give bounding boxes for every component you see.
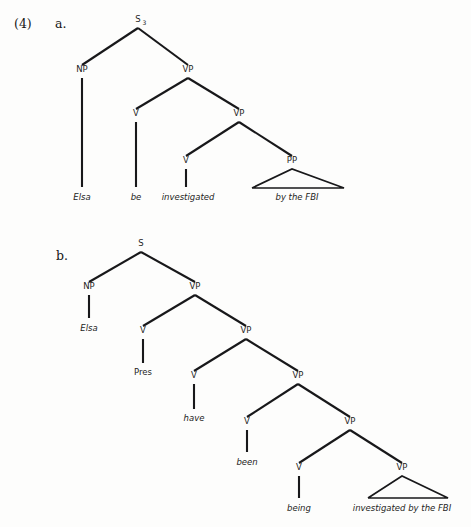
tree-node-v: V xyxy=(191,370,197,380)
tree-branch xyxy=(247,384,298,417)
tree-branch xyxy=(239,122,292,156)
tree-drawing-canvas: S3NPVPVVPVPPElsabeinvestigatedby the FBI… xyxy=(0,0,471,527)
tree-branch xyxy=(195,295,246,326)
terminal-word: Elsa xyxy=(73,192,90,202)
terminal-word: been xyxy=(236,457,257,467)
tree-node-vp: VP xyxy=(241,325,252,335)
terminal-word: by the FBI xyxy=(275,192,318,202)
tree-branch xyxy=(143,295,195,326)
tree-a: S3NPVPVVPVPPElsabeinvestigatedby the FBI xyxy=(73,14,344,202)
tree-node-vp: VP xyxy=(397,462,408,472)
terminal-word: Pres xyxy=(134,367,153,377)
tree-node-s: S xyxy=(135,14,140,24)
tree-branch xyxy=(194,339,246,371)
tree-branch xyxy=(298,384,350,417)
tree-node-v: V xyxy=(183,155,189,165)
constituent-triangle xyxy=(368,476,448,498)
terminal-word: be xyxy=(131,192,142,202)
tree-b: SNPVPVVPVVPVVPVVPElsaPreshavebeenbeingin… xyxy=(80,238,451,513)
tree-branch xyxy=(136,78,188,109)
tree-node-v: V xyxy=(133,108,139,118)
tree-branch xyxy=(82,28,138,65)
tree-branch xyxy=(141,252,195,282)
tree-branch xyxy=(186,122,239,156)
tree-node-v: V xyxy=(296,462,302,472)
terminal-word: investigated by the FBI xyxy=(353,503,452,513)
tree-branch xyxy=(89,252,141,282)
tree-node-pp: PP xyxy=(287,155,297,165)
tree-node-vp: VP xyxy=(234,108,245,118)
tree-node-np: NP xyxy=(76,64,87,74)
terminal-word: investigated xyxy=(162,192,215,202)
terminal-word: Elsa xyxy=(80,323,97,333)
terminal-word: being xyxy=(287,503,311,513)
tree-node-subscript: 3 xyxy=(143,19,147,26)
tree-branch xyxy=(350,430,402,463)
syntax-tree-figure: (4) a. b. S3NPVPVVPVPPElsabeinvestigated… xyxy=(0,0,471,527)
constituent-triangle xyxy=(252,169,344,188)
tree-node-vp: VP xyxy=(183,64,194,74)
terminal-word: have xyxy=(184,413,205,423)
tree-node-vp: VP xyxy=(293,370,304,380)
tree-node-vp: VP xyxy=(345,416,356,426)
tree-node-np: NP xyxy=(83,281,94,291)
tree-node-s: S xyxy=(138,238,143,248)
tree-branch xyxy=(138,28,188,65)
tree-branch xyxy=(188,78,239,109)
tree-node-vp: VP xyxy=(190,281,201,291)
tree-branch xyxy=(246,339,298,371)
tree-node-v: V xyxy=(244,416,250,426)
tree-node-v: V xyxy=(140,325,146,335)
tree-branch xyxy=(299,430,350,463)
